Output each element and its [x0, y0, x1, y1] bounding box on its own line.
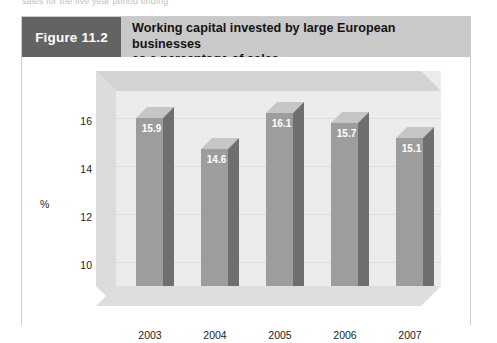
chart-3d-body: 15.9 14.6 16.1 15.7	[96, 71, 448, 311]
bar-2003-front	[136, 118, 163, 286]
y-tick-label-10: 10	[66, 259, 92, 271]
bar-2006-value-label: 15.7	[333, 128, 360, 139]
x-tick-label-2003: 2003	[125, 329, 175, 341]
y-tick-label-14: 14	[66, 163, 92, 175]
bar-2004[interactable]: 14.6	[201, 71, 239, 286]
y-axis-title: %	[40, 198, 49, 210]
y-axis-tick-labels: 16 14 12 10	[60, 57, 92, 325]
bar-2003[interactable]: 15.9	[136, 71, 174, 286]
figure-number-badge: Figure 11.2	[22, 17, 121, 57]
bar-2004-front	[201, 149, 228, 286]
figure-title-line-1: Working capital invested by large Europe…	[132, 21, 464, 52]
bar-2005-side	[293, 102, 304, 286]
figure-header: Figure 11.2 Working capital invested by …	[22, 17, 470, 57]
bar-2007[interactable]: 15.1	[396, 71, 434, 286]
chart-left-slab	[96, 71, 116, 306]
x-tick-label-2006: 2006	[320, 329, 370, 341]
bar-2005-front	[266, 113, 293, 286]
bar-2005-value-label: 16.1	[268, 118, 295, 129]
x-tick-label-2004: 2004	[190, 329, 240, 341]
x-tick-label-2005: 2005	[255, 329, 305, 341]
bar-2006[interactable]: 15.7	[331, 71, 369, 286]
chart-plot-region: % 16 14 12 10 15.9	[22, 57, 470, 325]
bar-2006-front	[331, 123, 358, 286]
x-tick-label-2007: 2007	[385, 329, 435, 341]
bar-2007-value-label: 15.1	[398, 143, 425, 154]
figure-card: Figure 11.2 Working capital invested by …	[21, 16, 471, 325]
y-tick-label-16: 16	[66, 115, 92, 127]
bar-2005[interactable]: 16.1	[266, 71, 304, 286]
bar-2003-value-label: 15.9	[138, 123, 165, 134]
bar-2004-value-label: 14.6	[203, 154, 230, 165]
page-body-text-cutoff: sales for the five year period ending	[22, 0, 322, 7]
y-tick-label-12: 12	[66, 211, 92, 223]
chart-floor-slab	[96, 286, 441, 306]
figure-number-label: Figure 11.2	[35, 30, 108, 45]
bar-2007-front	[396, 138, 423, 286]
